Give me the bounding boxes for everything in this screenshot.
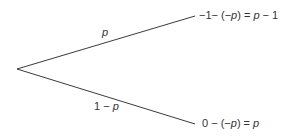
probability-var: p bbox=[113, 100, 119, 112]
outcome-var: p bbox=[253, 117, 259, 129]
branch-top-probability-label: p bbox=[102, 27, 108, 38]
outcome-text: ) = bbox=[237, 117, 253, 129]
outcome-text: ) = bbox=[237, 9, 253, 21]
branch-bottom-line bbox=[17, 69, 195, 124]
probability-p: p bbox=[102, 26, 108, 38]
branch-top-outcome: −1− (−p) = p − 1 bbox=[199, 10, 278, 21]
outcome-text: −1− (− bbox=[199, 9, 231, 21]
probability-prefix: 1 − bbox=[94, 100, 113, 112]
outcome-text: − 1 bbox=[260, 9, 279, 21]
branch-top-line bbox=[17, 16, 195, 69]
outcome-text: 0 − (− bbox=[202, 117, 231, 129]
branch-bottom-outcome: 0 − (−p) = p bbox=[202, 118, 259, 129]
branch-bottom-probability-label: 1 − p bbox=[94, 101, 119, 112]
